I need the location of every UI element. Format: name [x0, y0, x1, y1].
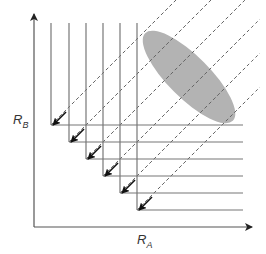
- corner-arrow-5: [122, 180, 135, 193]
- x-axis-label-subscript: A: [146, 240, 152, 250]
- x-axis-label: RA: [137, 232, 152, 250]
- corner-arrow-3: [88, 146, 101, 159]
- y-axis-label-text: R: [13, 112, 22, 127]
- y-axis-label: RB: [13, 112, 28, 130]
- x-axis-label-text: R: [137, 232, 146, 247]
- y-axis-label-subscript: B: [22, 120, 28, 130]
- gray-ellipse-region: [130, 18, 247, 135]
- corner-arrow-6: [139, 197, 152, 210]
- corner-arrow-4: [105, 163, 118, 176]
- staircase-diagram: [0, 0, 266, 254]
- corner-arrow-2: [71, 129, 84, 142]
- corner-arrow-1: [53, 112, 66, 125]
- horizontal-step-lines: [51, 125, 243, 210]
